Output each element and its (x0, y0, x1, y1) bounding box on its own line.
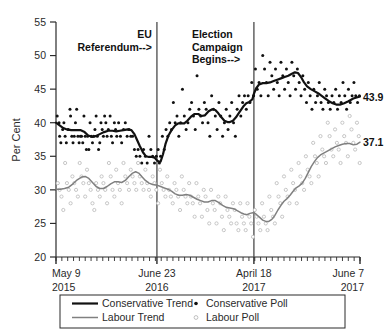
poll-point (178, 208, 181, 211)
poll-point (239, 202, 242, 205)
poll-point (91, 202, 94, 205)
poll-point (266, 229, 269, 232)
poll-point (98, 141, 101, 144)
poll-point (210, 94, 213, 97)
poll-point (214, 115, 217, 118)
poll-point (345, 108, 348, 111)
poll-point (304, 155, 307, 158)
poll-point (295, 202, 298, 205)
poll-point (78, 141, 81, 144)
poll-point (350, 128, 353, 131)
poll-point (321, 108, 324, 111)
poll-point (284, 188, 287, 191)
poll-point (290, 61, 293, 64)
poll-point (115, 168, 118, 171)
poll-point (138, 155, 141, 158)
poll-point (129, 168, 132, 171)
poll-point (185, 128, 188, 131)
poll-point (300, 94, 303, 97)
poll-point (283, 88, 286, 91)
poll-point (64, 161, 67, 164)
poll-point (313, 155, 316, 158)
poll-point (157, 202, 160, 205)
poll-point (206, 208, 209, 211)
poll-point (254, 68, 257, 71)
poll-point (80, 135, 83, 138)
poll-point (84, 195, 87, 198)
poll-point (105, 202, 108, 205)
poll-point (358, 161, 361, 164)
poll-point (292, 74, 295, 77)
poll-point (60, 195, 63, 198)
poll-point (294, 88, 297, 91)
poll-point (93, 128, 96, 131)
poll-point (149, 195, 152, 198)
poll-point (197, 195, 200, 198)
poll-point (257, 222, 260, 225)
x-tick-label-year: 2016 (145, 281, 169, 293)
poll-point (222, 229, 225, 232)
poll-point (171, 202, 174, 205)
poll-point (337, 148, 340, 151)
poll-point (270, 74, 273, 77)
poll-point (82, 182, 85, 185)
poll-point (140, 182, 143, 185)
poll-point (133, 182, 136, 185)
poll-point (310, 182, 313, 185)
poll-point (343, 94, 346, 97)
poll-point (281, 215, 284, 218)
x-axis-tick-labels: May 92015June 232016April 182017June 720… (52, 267, 364, 293)
poll-point (58, 135, 61, 138)
chart-canvas: 2025303540455055 May 92015June 232016Apr… (0, 0, 384, 332)
poll-point (175, 115, 178, 118)
poll-point (220, 215, 223, 218)
y-axis-label: Per Cent (10, 118, 22, 161)
poll-point (122, 161, 125, 164)
poll-point (111, 141, 114, 144)
poll-point (72, 141, 75, 144)
poll-point (149, 148, 152, 151)
poll-point (188, 108, 191, 111)
poll-point (290, 168, 293, 171)
poll-point (101, 128, 104, 131)
poll-point (65, 182, 68, 185)
poll-point (318, 81, 321, 84)
poll-point (190, 101, 193, 104)
poll-point (155, 188, 158, 191)
poll-point (287, 81, 290, 84)
poll-point (104, 121, 107, 124)
y-tick-label: 55 (34, 16, 46, 28)
poll-point (74, 121, 77, 124)
poll-point (357, 135, 360, 138)
poll-point (140, 162, 143, 165)
poll-point (320, 101, 323, 104)
poll-point (264, 222, 267, 225)
legend-entries: Conservative TrendConservative PollLabou… (72, 297, 288, 323)
poll-point (305, 101, 308, 104)
poll-point (177, 135, 180, 138)
poll-point (326, 121, 329, 124)
annotation-election-campaign-line: Election (192, 28, 233, 40)
poll-point (250, 81, 253, 84)
poll-point (328, 135, 331, 138)
poll-point (235, 222, 238, 225)
legend-label: Labour Poll (206, 311, 259, 323)
y-tick-label: 30 (34, 184, 46, 196)
poll-point (158, 168, 161, 171)
poll-point (224, 195, 227, 198)
poll-point (160, 182, 163, 185)
poll-point (73, 135, 76, 138)
y-tick-label: 50 (34, 49, 46, 61)
poll-point (225, 108, 228, 111)
poll-point (354, 148, 357, 151)
poll-point (245, 108, 248, 111)
trend-path (56, 72, 360, 161)
poll-trend-chart: 2025303540455055 May 92015June 232016Apr… (0, 0, 384, 332)
poll-point (195, 182, 198, 185)
end-label-labour: 37.1 (363, 136, 384, 148)
poll-point (198, 202, 201, 205)
poll-point (312, 141, 315, 144)
annotation-eu-referendum-line: EU (137, 28, 152, 40)
poll-point (319, 135, 322, 138)
poll-point (103, 115, 106, 118)
